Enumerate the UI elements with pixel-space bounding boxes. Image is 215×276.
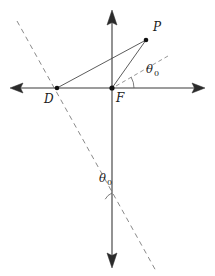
theta-symbol-lower: θ — [99, 171, 106, 185]
angle-label-theta-zero-lower: θ 0 — [99, 171, 112, 187]
y-axis-top-arrow-icon — [107, 10, 117, 25]
point-dot-D — [55, 86, 60, 91]
point-dot-F — [109, 85, 114, 90]
segment-F-to-P — [112, 40, 146, 88]
point-label-P: P — [152, 20, 162, 34]
geometry-figure: P D F θ 0 θ 0 — [0, 0, 215, 276]
theta-symbol-focus: θ — [146, 62, 153, 76]
point-label-F: F — [115, 91, 125, 105]
theta-subscript-focus: 0 — [154, 69, 159, 78]
y-axis-bottom-arrow-icon — [107, 253, 117, 268]
angle-arc-lower — [105, 193, 112, 199]
point-label-D: D — [43, 92, 54, 106]
directrix-dashed-line — [17, 21, 156, 271]
angle-label-theta-zero-focus: θ 0 — [146, 62, 159, 78]
diagram-canvas: P D F θ 0 θ 0 — [0, 0, 215, 276]
point-dot-P — [144, 38, 149, 43]
angle-arc-at-focus — [131, 77, 134, 88]
theta-subscript-lower: 0 — [107, 178, 112, 187]
